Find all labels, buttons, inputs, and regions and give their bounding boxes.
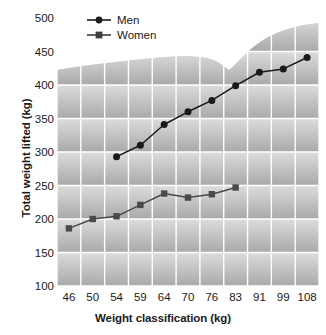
x-tick-label: 70 (182, 291, 195, 303)
data-point (137, 142, 144, 149)
legend-label-men: Men (117, 14, 139, 26)
square-marker-icon (86, 28, 112, 42)
data-point (113, 213, 119, 219)
data-point (304, 54, 311, 61)
circle-marker-icon (86, 13, 112, 27)
data-point (161, 121, 168, 128)
data-point (161, 190, 167, 196)
data-point (137, 202, 143, 208)
data-point (209, 191, 215, 197)
data-point (280, 65, 287, 72)
x-tick-label: 59 (134, 291, 147, 303)
x-tick-label: 76 (205, 291, 218, 303)
legend-entry-men: Men (86, 12, 206, 27)
data-point (113, 153, 120, 160)
legend-entry-women: Women (86, 27, 206, 42)
x-tick-label: 99 (277, 291, 290, 303)
x-tick-label: 46 (63, 291, 76, 303)
legend: Men Women (86, 12, 206, 42)
x-tick-label: 108 (297, 291, 316, 303)
weightlifting-line-chart: Total weight lifted (kg) 100150200250300… (0, 0, 326, 335)
data-point (208, 97, 215, 104)
plot-canvas (57, 18, 319, 286)
legend-label-women: Women (117, 29, 156, 41)
x-tick-label: 50 (86, 291, 99, 303)
x-axis-title: Weight classification (kg) (0, 312, 326, 324)
data-point (232, 184, 238, 190)
plot-area (57, 18, 319, 286)
x-tick-label: 91 (253, 291, 266, 303)
data-point (232, 82, 239, 89)
data-point (90, 216, 96, 222)
x-tick-label: 64 (158, 291, 171, 303)
data-point (185, 194, 191, 200)
x-tick-label: 83 (229, 291, 242, 303)
x-tick-label: 54 (110, 291, 123, 303)
data-point (185, 108, 192, 115)
data-point (66, 225, 72, 231)
data-point (256, 69, 263, 76)
